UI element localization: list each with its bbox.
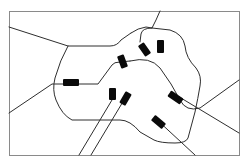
marker-north-right [157,40,164,53]
schematic-map [0,0,252,167]
marker-center-south-1 [109,88,116,100]
map-canvas [0,0,252,167]
map-frame [10,12,240,156]
marker-west [63,79,79,86]
